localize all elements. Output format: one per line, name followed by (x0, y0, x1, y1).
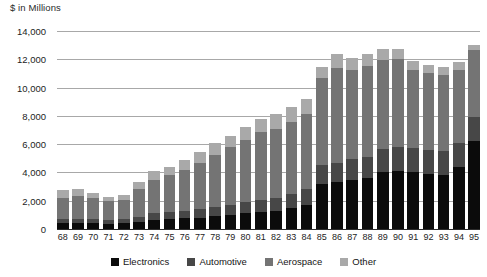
legend-item-automotive[interactable]: Automotive (187, 256, 247, 267)
bar-segment-electronics (331, 182, 343, 229)
bar-segment-aerospace (346, 70, 358, 159)
x-axis-tick-label: 84 (301, 232, 313, 242)
bar-segment-automotive (209, 207, 221, 216)
x-axis-tick-label: 78 (209, 232, 221, 242)
y-axis-tick-label: 10,000 (0, 82, 46, 93)
bar-segment-aerospace (164, 175, 176, 212)
bar-segment-other (270, 114, 282, 128)
x-axis-tick-labels: 6869707172737475767778798081828384858687… (57, 232, 480, 242)
bar-93 (438, 67, 450, 229)
bar-segment-aerospace (148, 180, 160, 214)
bar-82 (270, 114, 282, 229)
bar-segment-other (240, 127, 252, 140)
bar-segment-electronics (240, 213, 252, 229)
bar-segment-electronics (301, 205, 313, 229)
bar-89 (377, 49, 389, 229)
bar-segment-aerospace (392, 59, 404, 147)
legend-swatch-icon (265, 258, 273, 266)
bar-segment-other (453, 62, 465, 70)
bar-71 (103, 197, 115, 229)
x-axis-tick-label: 85 (316, 232, 328, 242)
bar-76 (179, 160, 191, 229)
bar-92 (423, 65, 435, 229)
bar-87 (346, 58, 358, 229)
bar-segment-aerospace (316, 78, 328, 164)
y-axis-tick-label: 6,000 (0, 139, 46, 150)
y-axis-tick-label: 4,000 (0, 167, 46, 178)
chart-legend: ElectronicsAutomotiveAerospaceOther (0, 256, 487, 267)
x-axis-tick-label: 88 (362, 232, 374, 242)
bar-segment-electronics (209, 216, 221, 229)
bar-segment-automotive (346, 159, 358, 180)
legend-swatch-icon (111, 258, 119, 266)
x-axis-tick-label: 77 (194, 232, 206, 242)
bar-segment-automotive (316, 165, 328, 184)
bar-70 (87, 193, 99, 229)
bar-segment-aerospace (423, 73, 435, 149)
bar-segment-automotive (286, 194, 298, 208)
bar-segment-electronics (148, 220, 160, 229)
bar-segment-electronics (270, 211, 282, 229)
x-axis-tick-label: 76 (179, 232, 191, 242)
bar-segment-aerospace (179, 170, 191, 211)
legend-label: Other (352, 256, 376, 267)
bar-segment-aerospace (72, 196, 84, 219)
bar-segment-electronics (225, 215, 237, 229)
bar-69 (72, 189, 84, 229)
x-axis-tick-label: 70 (87, 232, 99, 242)
bar-segment-aerospace (240, 140, 252, 202)
legend-item-aerospace[interactable]: Aerospace (265, 256, 322, 267)
bar-segment-automotive (270, 198, 282, 211)
bar-segment-other (133, 182, 145, 189)
bar-segment-automotive (255, 200, 267, 212)
legend-item-electronics[interactable]: Electronics (111, 256, 169, 267)
x-axis-line (57, 229, 480, 230)
bar-segment-aerospace (133, 189, 145, 217)
legend-label: Automotive (199, 256, 247, 267)
bar-segment-other (316, 67, 328, 78)
y-axis-tick-label: 14,000 (0, 26, 46, 37)
x-axis-tick-label: 92 (423, 232, 435, 242)
x-axis-tick-label: 80 (240, 232, 252, 242)
legend-swatch-icon (340, 258, 348, 266)
bar-81 (255, 119, 267, 229)
bar-segment-aerospace (301, 114, 313, 189)
bar-segment-electronics (57, 223, 69, 229)
bar-segment-electronics (72, 223, 84, 229)
bar-segment-other (179, 160, 191, 170)
y-axis-tick-label: 0 (0, 224, 46, 235)
bar-73 (133, 182, 145, 229)
bar-segment-automotive (407, 148, 419, 173)
bar-segment-automotive (301, 189, 313, 205)
bar-segment-other (209, 143, 221, 154)
bar-segment-electronics (392, 171, 404, 229)
bar-segment-aerospace (453, 70, 465, 144)
bar-segment-electronics (362, 178, 374, 229)
bar-segment-other (255, 119, 267, 132)
bar-83 (286, 107, 298, 229)
legend-item-other[interactable]: Other (340, 256, 376, 267)
bar-segment-automotive (392, 147, 404, 171)
bar-segment-other (438, 67, 450, 75)
bar-91 (407, 61, 419, 229)
x-axis-tick-label: 72 (118, 232, 130, 242)
x-axis-tick-label: 86 (331, 232, 343, 242)
bar-segment-electronics (423, 174, 435, 229)
stacked-bar-chart: $ in Millions 02,0004,0006,0008,00010,00… (0, 0, 487, 277)
bar-segment-electronics (118, 223, 130, 229)
x-axis-tick-label: 82 (270, 232, 282, 242)
bar-74 (148, 171, 160, 229)
bar-segment-aerospace (331, 68, 343, 163)
bar-segment-other (423, 65, 435, 73)
bar-segment-other (72, 189, 84, 196)
bar-segment-automotive (194, 209, 206, 217)
bar-94 (453, 62, 465, 229)
bar-segment-electronics (407, 172, 419, 229)
bar-segment-other (301, 99, 313, 115)
bar-segment-other (392, 49, 404, 59)
bar-segment-other (362, 54, 374, 67)
bar-segment-automotive (377, 149, 389, 172)
bar-segment-electronics (194, 218, 206, 229)
bar-segment-electronics (438, 175, 450, 229)
bar-segment-electronics (377, 172, 389, 229)
